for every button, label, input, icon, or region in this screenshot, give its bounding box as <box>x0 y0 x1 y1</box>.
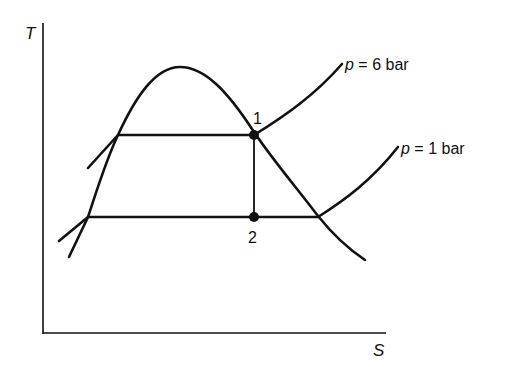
x-axis-label: S <box>373 341 385 360</box>
state-point-2 <box>249 212 259 222</box>
point-2-label: 2 <box>248 229 257 246</box>
pressure-value: = 1 bar <box>410 140 465 157</box>
point-1-label: 1 <box>253 110 262 127</box>
saturation-dome <box>69 67 365 260</box>
state-point-1 <box>249 130 259 140</box>
pressure-symbol: p <box>344 56 354 73</box>
isobar-6-bar-label: p = 6 bar <box>344 56 409 73</box>
pressure-symbol: p <box>400 140 410 157</box>
isobar-1-bar-label: p = 1 bar <box>400 140 465 157</box>
y-axis-label: T <box>25 24 37 43</box>
isobar-1-bar <box>59 147 398 241</box>
pressure-value: = 6 bar <box>354 56 409 73</box>
ts-diagram: T S 1 2 p = 6 bar p = 1 bar <box>0 0 510 367</box>
